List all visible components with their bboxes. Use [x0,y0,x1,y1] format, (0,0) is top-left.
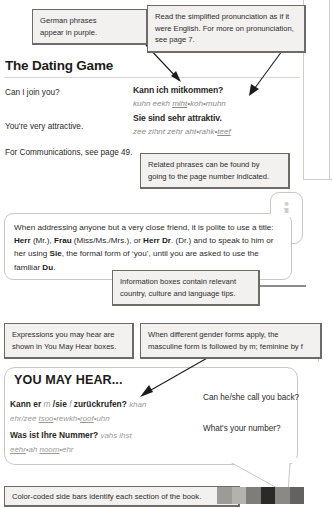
callout-line: Expressions you may hear are [12,329,125,341]
callout-line: German phrases [40,15,139,27]
color-swatch [232,487,247,504]
bottom-caption-text: Color-coded side bars identify each sect… [12,492,201,501]
ymh-row-1-pronunciation: eehr•ah noom•ehr [10,438,73,456]
side-rule-vertical-outer [329,0,330,180]
callout-pronunciation: Read the simplified pronunciation as if … [147,5,306,53]
callout-line: When different gender forms apply, the [148,329,313,341]
ymh-row-0-pronunciation: ehr/zee tsoo•rewkh•roof•uhn [10,407,110,425]
callout-line: see page 7. [155,34,297,46]
callout-line: masculine form is followed by m; feminin… [148,341,313,353]
color-swatch [246,487,261,504]
callout-line: shown in You May Hear boxes. [12,341,125,353]
page-title: The Dating Game [5,58,113,73]
color-coded-side-bars [217,487,304,504]
color-swatch [275,487,290,504]
callout-line: country, culture and language tips. [120,288,251,300]
leader-gender-to-ymh [128,352,218,400]
callout-line: Related phrases can be found by [148,159,281,171]
callout-line: were English. For more on pronunciation, [155,23,297,35]
cross-reference[interactable]: For Communications, see page 49. [5,148,132,157]
callout-line: Information boxes contain relevant [120,276,251,288]
side-rule-horizontal [303,179,332,180]
info-tab-seam [271,213,302,217]
information-box-text: When addressing anyone but a very close … [14,221,282,274]
callout-line: Read the simplified pronunciation as if … [155,11,297,23]
ymh-row-1-english: What's your number? [203,424,281,433]
callout-line: appear in purple. [40,27,139,39]
phrase-german-1: Sie sind sehr attraktiv. [133,113,222,123]
guide-page: The Dating Game Can I join you? Kann ich… [0,0,332,509]
callout-purple-phrases: German phrases appear in purple. [32,9,148,45]
phrase-english-0: Can I join you? [5,88,60,97]
bottom-caption-box: Color-coded side bars identify each sect… [4,486,240,507]
color-swatch [261,487,276,504]
phrase-pronunciation-1: zee zihnt zehr aht•rahk•teef [133,127,231,136]
callout-information-boxes: Information boxes contain relevant count… [112,270,260,306]
leader-pronunciation-to-pron [240,50,295,106]
color-swatch [217,487,232,504]
phrase-pronunciation-0: kuhn eekh miht•koh•muhn [133,99,226,108]
callout-you-may-hear: Expressions you may hear are shown in Yo… [4,323,134,359]
you-may-hear-title: YOU MAY HEAR... [14,373,123,387]
callout-line: going to the page number indicated. [148,171,281,183]
phrase-english-1: You're very attractive. [5,122,83,131]
color-swatch [290,487,305,504]
callout-related-phrases: Related phrases can be found by going to… [140,153,290,189]
callout-gender-forms: When different gender forms apply, the m… [140,323,322,359]
